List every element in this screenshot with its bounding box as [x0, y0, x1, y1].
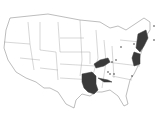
- us-outline: [4, 14, 150, 108]
- us-map: [0, 0, 164, 120]
